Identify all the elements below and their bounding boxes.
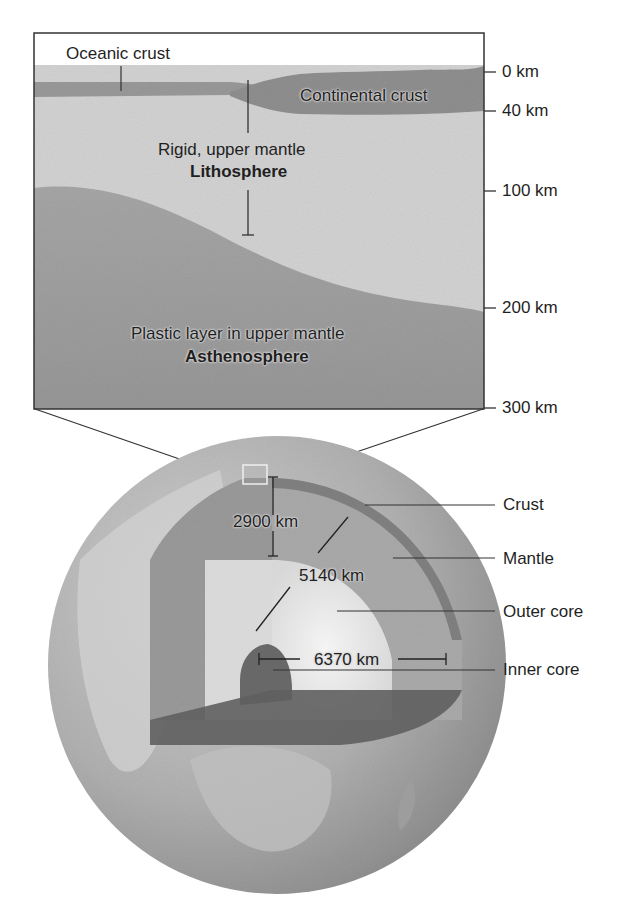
lithosphere-inset-diagram xyxy=(0,0,636,909)
continental-crust-label: Continental crust xyxy=(300,86,428,106)
lithosphere-description: Rigid, upper mantle xyxy=(158,140,305,160)
earth-radius-label: 6370 km xyxy=(314,650,379,670)
asthenosphere-description: Plastic layer in upper mantle xyxy=(131,324,345,344)
asthenosphere-label: Asthenosphere xyxy=(185,347,309,367)
mantle-thickness-label: 2900 km xyxy=(233,512,298,532)
depth-label-300km: 300 km xyxy=(502,398,558,418)
depth-scale-ticks xyxy=(484,72,496,408)
depth-label-0km: 0 km xyxy=(502,62,539,82)
mantle-layer-label: Mantle xyxy=(503,549,554,569)
inner-core-layer-label: Inner core xyxy=(503,660,580,680)
depth-label-100km: 100 km xyxy=(502,181,558,201)
core-radius-label: 5140 km xyxy=(299,566,364,586)
depth-label-200km: 200 km xyxy=(502,298,558,318)
lithosphere-label: Lithosphere xyxy=(190,162,287,182)
outer-core-layer-label: Outer core xyxy=(503,602,583,622)
crust-layer-label: Crust xyxy=(503,495,544,515)
depth-label-40km: 40 km xyxy=(502,101,548,121)
oceanic-crust-label: Oceanic crust xyxy=(66,44,170,64)
